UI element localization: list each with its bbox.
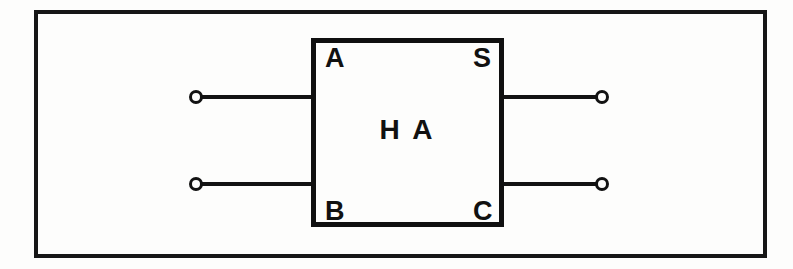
pin-label-c: C (473, 198, 493, 225)
wire-output-c (498, 182, 602, 186)
wire-output-s (498, 95, 602, 99)
pin-label-a: A (325, 45, 345, 72)
wire-input-b (200, 182, 318, 186)
pin-label-b: B (325, 198, 345, 225)
diagram-canvas: A S B C H A (0, 0, 793, 269)
terminal-input-a (189, 90, 203, 104)
wire-input-a (200, 95, 318, 99)
block-title-label: H A (311, 116, 504, 144)
terminal-input-b (189, 177, 203, 191)
terminal-output-s (595, 90, 609, 104)
terminal-output-c (595, 177, 609, 191)
pin-label-s: S (473, 45, 491, 72)
